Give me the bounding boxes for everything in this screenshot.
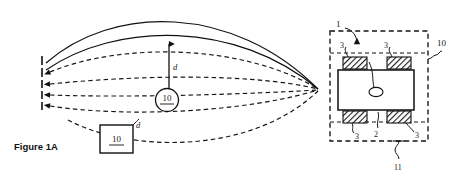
dimension-d-box-label: d [136, 120, 141, 130]
solid-arc-upper [46, 22, 318, 89]
figure-caption: Figure 1A [14, 141, 58, 152]
outer-boundary-label: 10 [437, 38, 447, 48]
marker-square-10: 10 [100, 119, 139, 153]
dashed-sag-1 [50, 90, 318, 96]
pad-top-right [387, 57, 411, 69]
body-leader-line [377, 112, 378, 128]
pad-bottom-right-label: 3 [415, 131, 419, 140]
pad-top-left [343, 57, 367, 69]
outer-boundary-leader [428, 51, 442, 59]
base-reference-label: 11 [394, 163, 402, 172]
pad-bottom-right [387, 111, 411, 123]
pad-bottom-left-label: 3 [355, 132, 359, 141]
pad-top-left-label: 3 [340, 41, 344, 50]
dimension-d-label: d [173, 62, 178, 72]
marker-circle-10: 10 [156, 89, 179, 112]
patent-figure-1a: d 10 10 d [0, 0, 456, 176]
dashed-flat-1 [50, 77, 318, 89]
marker-circle-label: 10 [163, 93, 173, 103]
solid-arc-lower [46, 35, 318, 89]
base-reference-leader [395, 141, 399, 159]
device-assembly-label: 1 [336, 19, 341, 29]
pad-bottom-left [343, 111, 367, 123]
pad-top-right-label: 3 [384, 41, 388, 50]
dashed-arc-upper [50, 52, 318, 89]
device-body-label: 2 [374, 130, 378, 139]
device-body [338, 70, 414, 110]
dashed-sag-2 [50, 90, 318, 112]
marker-square-label: 10 [112, 134, 122, 144]
figure-canvas: d 10 10 d [0, 0, 456, 176]
